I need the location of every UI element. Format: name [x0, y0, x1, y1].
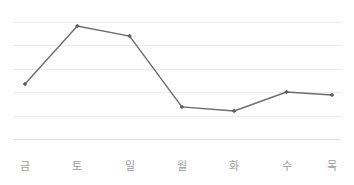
series-line-path	[25, 26, 332, 111]
weekday-line-chart: 금토일월화수목	[0, 0, 354, 185]
data-point-marker[interactable]	[284, 90, 289, 95]
data-point-marker[interactable]	[330, 93, 335, 98]
series-group	[23, 24, 335, 114]
data-point-marker[interactable]	[232, 109, 237, 114]
series-markers-group	[23, 24, 335, 114]
gridlines-group	[13, 23, 341, 140]
chart-canvas	[0, 0, 354, 185]
